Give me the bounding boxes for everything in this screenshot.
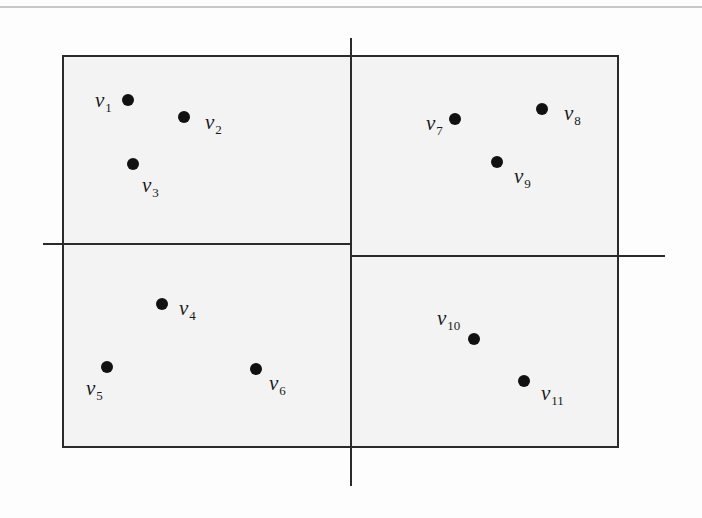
point-label-v3: v3 — [142, 175, 159, 199]
point-marker-v11 — [518, 375, 530, 387]
point-label-v7: v7 — [426, 113, 443, 137]
point-marker-v6 — [250, 363, 262, 375]
point-marker-v1 — [122, 94, 134, 106]
point-label-v8: v8 — [564, 103, 581, 127]
point-marker-v9 — [491, 156, 503, 168]
point-label-v2: v2 — [205, 112, 222, 136]
point-label-v6: v6 — [269, 373, 286, 397]
point-label-v10: v10 — [437, 308, 460, 332]
point-marker-v3 — [127, 158, 139, 170]
top-rule — [0, 6, 702, 8]
point-label-v5: v5 — [86, 378, 103, 402]
point-marker-v5 — [101, 361, 113, 373]
vertical-split-line — [350, 38, 352, 486]
point-marker-v4 — [156, 298, 168, 310]
point-marker-v8 — [536, 103, 548, 115]
point-label-v4: v4 — [179, 298, 196, 322]
point-label-v9: v9 — [514, 166, 531, 190]
point-label-v11: v11 — [541, 383, 564, 407]
point-marker-v10 — [468, 333, 480, 345]
point-label-v1: v1 — [95, 90, 112, 114]
diagram-canvas: v1 v2 v3 v4 v5 v6 v7 v8 v9 v10 v11 — [0, 0, 702, 518]
point-marker-v7 — [449, 113, 461, 125]
point-marker-v2 — [178, 111, 190, 123]
horizontal-split-line-right — [351, 255, 665, 257]
horizontal-split-line-left — [43, 243, 352, 245]
bounding-box — [62, 55, 619, 448]
